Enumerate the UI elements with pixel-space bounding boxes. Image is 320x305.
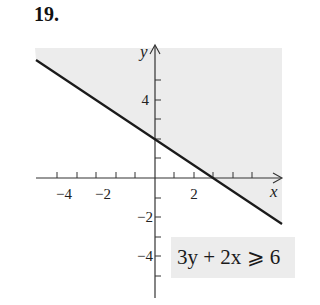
y-tick-label-neg2: −2 xyxy=(137,209,153,225)
y-axis-label: y xyxy=(138,42,148,61)
inequality-label: 3y + 2x ⩾ 6 xyxy=(177,245,280,270)
x-tick-label-neg2: −2 xyxy=(95,186,111,202)
y-tick-label-4: 4 xyxy=(142,92,150,108)
x-tick-label-2: 2 xyxy=(190,186,198,202)
y-tick-label-neg4: −4 xyxy=(137,248,153,264)
x-axis-label: x xyxy=(269,182,278,201)
x-tick-label-neg4: −4 xyxy=(56,186,72,202)
